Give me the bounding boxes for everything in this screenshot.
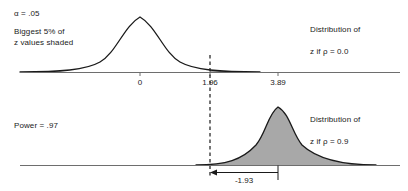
offset-value-label: -1.93 [235, 176, 253, 185]
alpha-annotation: α = .05 [14, 8, 40, 19]
alternative-distribution-label-line2: z if ρ = 0.9 [310, 137, 348, 146]
alternative-distribution-label: Distribution of z if ρ = 0.9 [310, 103, 360, 147]
tick-label-mean: 3.89 [270, 78, 286, 87]
power-analysis-figure: α = .05 Biggest 5% of z values shaded Po… [0, 0, 408, 191]
null-distribution-label-line1: Distribution of [310, 25, 360, 34]
shaded-region-note: Biggest 5% of z values shaded [14, 26, 73, 48]
alternative-distribution-label-line1: Distribution of [310, 115, 360, 124]
offset-arrowhead-icon [210, 170, 217, 176]
power-annotation: Power = .97 [14, 120, 58, 131]
tick-label-critical: 1.96 [202, 78, 218, 87]
null-distribution-label-line2: z if ρ = 0.0 [310, 47, 348, 56]
tick-label-zero: 0 [138, 78, 142, 87]
null-distribution-label: Distribution of z if ρ = 0.0 [310, 13, 360, 57]
